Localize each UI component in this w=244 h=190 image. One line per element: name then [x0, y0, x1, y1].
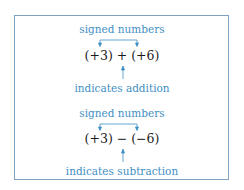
bracket-arrow-icon: [99, 40, 139, 47]
indicates-addition-label: indicates addition: [0, 82, 244, 94]
signed-numbers-label: signed numbers: [0, 23, 244, 35]
bracket-arrow-icon: [99, 124, 139, 131]
up-arrow-icon: [122, 149, 125, 162]
up-arrow-icon: [122, 66, 125, 79]
subtraction-expression: (+3) − (−6): [0, 131, 244, 146]
indicates-subtraction-label: indicates subtraction: [0, 165, 244, 177]
signed-numbers-label: signed numbers: [0, 107, 244, 119]
addition-expression: (+3) + (+6): [0, 48, 244, 63]
